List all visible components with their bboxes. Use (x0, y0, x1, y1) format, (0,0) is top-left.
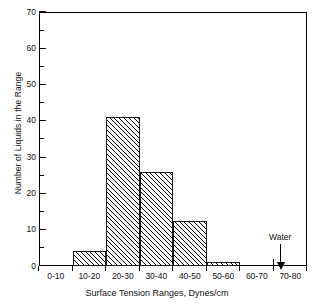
y-tick-minor (39, 102, 44, 103)
y-tick-minor (39, 30, 44, 31)
histogram-bar (173, 221, 207, 266)
y-tick-minor (39, 138, 44, 139)
y-tick-major (39, 120, 46, 121)
y-tick-major (39, 193, 46, 194)
y-tick-label: 70 (6, 8, 36, 17)
y-tick-label: 50 (6, 80, 36, 89)
y-tick-major (39, 48, 46, 49)
histogram-bar (207, 262, 241, 266)
y-tick-minor (39, 211, 44, 212)
y-tick-major (39, 229, 46, 230)
y-tick-major (39, 265, 46, 266)
water-label: Water (250, 232, 310, 242)
y-tick-label: 60 (6, 44, 36, 53)
y-tick-label: 10 (6, 225, 36, 234)
y-tick-minor (39, 247, 44, 248)
y-tick-minor (39, 175, 44, 176)
y-tick-minor (39, 66, 44, 67)
histogram-bar (73, 251, 107, 266)
arrow-shaft (280, 244, 281, 264)
y-tick-major (39, 157, 46, 158)
y-tick-label: 0 (6, 262, 36, 271)
y-tick-label: 30 (6, 153, 36, 162)
x-axis-title: Surface Tension Ranges, Dynes/cm (0, 288, 314, 298)
histogram-bar (140, 172, 174, 266)
y-tick-major (39, 84, 46, 85)
y-tick-label: 20 (6, 189, 36, 198)
y-axis-title: Number of Liquids in the Range (13, 33, 23, 233)
arrow-head (277, 262, 285, 270)
y-tick-label: 40 (6, 116, 36, 125)
y-tick-major (39, 11, 46, 12)
water-reference-tick (273, 259, 274, 266)
histogram-bar (106, 117, 140, 266)
x-tick-label: 70-80 (270, 271, 310, 281)
histogram-figure: Number of Liquids in the Range 010203040… (0, 0, 314, 308)
